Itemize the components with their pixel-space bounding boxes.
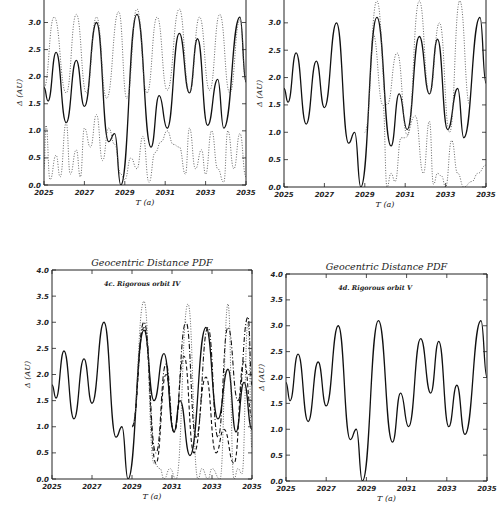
y-tick-label: 2.5 [37,345,50,353]
plot-area [52,301,252,479]
x-tick-label: 2029 [357,485,377,493]
y-tick-label: 3.0 [37,319,50,327]
y-axis-label: Δ (AU) [255,80,264,108]
y-tick-label: 3.5 [37,293,50,301]
x-tick-label: 2035 [477,485,497,493]
x-axis-label: T (a) [143,492,162,501]
x-tick-label: 2033 [437,485,457,493]
x-tick-label: 2031 [155,189,175,197]
y-tick-label: 3.5 [271,296,284,304]
chart-title: Geocentric Distance PDF [91,257,213,268]
y-tick-label: 3.0 [29,19,42,27]
y-tick-label: 2.5 [269,47,282,55]
y-axis-label: Δ (AU) [23,361,32,389]
x-tick-label: 2033 [196,189,216,197]
y-tick-label: 0.5 [269,156,282,164]
y-tick-label: 1.5 [269,101,282,109]
series-lower-envelope [44,115,246,183]
x-axis-label: T (a) [377,494,396,503]
y-tick-label: 1.5 [29,100,42,108]
y-tick-label: 1.0 [271,426,284,434]
series-nominal [44,14,246,185]
y-tick-label: 4.0 [37,267,50,275]
x-tick-label: 2031 [395,191,415,199]
x-axis-label: T (a) [376,200,395,209]
x-tick-label: 2031 [162,483,182,491]
y-tick-label: 4.0 [271,271,284,279]
y-tick-label: 2.5 [29,46,42,54]
x-tick-label: 2035 [476,191,496,199]
y-tick-label: 3.0 [269,19,282,27]
y-tick-label: 2.0 [29,73,42,81]
chart-panel-4a: 0.00.51.01.52.02.53.02025202720292031203… [15,0,256,207]
y-tick-label: 2.5 [271,348,284,356]
x-tick-label: 2029 [115,189,135,197]
x-tick-label: 2025 [42,483,62,491]
chart-title: Geocentric Distance PDF [326,261,448,272]
x-tick-label: 2033 [436,191,456,199]
chart-panel-4d: 0.00.51.01.52.02.53.03.54.02025202720292… [257,261,497,503]
x-tick-label: 2035 [236,189,256,197]
series-nominal [284,17,486,187]
x-tick-label: 2029 [122,483,142,491]
chart-annotation: 4d. Rigorous orbit V [338,284,413,292]
y-tick-label: 2.0 [271,374,284,382]
plot-area [286,321,487,481]
y-axis-label: Δ (AU) [257,364,266,392]
series-upper-envelope [365,1,470,135]
y-tick-label: 1.0 [37,423,50,431]
y-axis-label: Δ (AU) [15,79,24,107]
x-tick-label: 2027 [316,485,336,493]
y-tick-label: 0.5 [37,449,50,457]
y-tick-label: 2.0 [269,74,282,82]
y-tick-label: 1.0 [269,129,282,137]
x-tick-label: 2025 [34,189,54,197]
y-tick-label: 0.5 [271,452,284,460]
figure: 0.00.51.01.52.02.53.02025202720292031203… [0,0,499,532]
x-tick-label: 2029 [355,191,375,199]
x-tick-label: 2025 [276,485,296,493]
y-tick-label: 3.0 [271,322,284,330]
x-tick-label: 2031 [397,485,417,493]
y-tick-label: 1.5 [37,397,50,405]
x-axis-label: T (a) [136,198,155,207]
series-nominal [286,321,487,481]
x-tick-label: 2033 [202,483,222,491]
x-tick-label: 2035 [242,483,262,491]
y-tick-label: 1.0 [29,127,42,135]
x-tick-label: 2027 [82,483,102,491]
plot-area [44,9,246,185]
x-tick-label: 2027 [315,191,335,199]
x-tick-label: 2025 [274,191,294,199]
chart-panel-4c: 0.00.51.01.52.02.53.03.54.02025202720292… [23,257,262,501]
chart-annotation: 4c. Rigorous orbit IV [104,280,181,288]
chart-panel-4b: 0.00.51.01.52.02.53.02025202720292031203… [255,0,496,209]
figure-canvas: 0.00.51.01.52.02.53.02025202720292031203… [0,0,499,532]
plot-area [284,1,486,187]
y-tick-label: 1.5 [271,400,284,408]
y-tick-label: 0.5 [29,154,42,162]
x-tick-label: 2027 [75,189,95,197]
y-tick-label: 2.0 [37,371,50,379]
